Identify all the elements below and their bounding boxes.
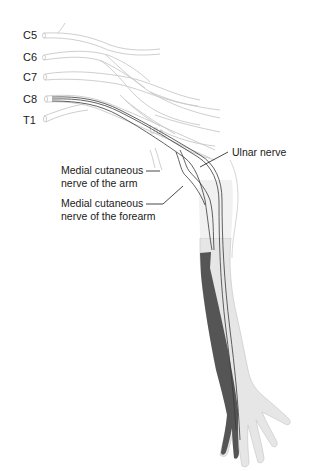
root-label-c8: C8 bbox=[23, 93, 37, 105]
label-mcn-forearm-line2: nerve of the forearm bbox=[61, 210, 156, 222]
label-ulnar-nerve: Ulnar nerve bbox=[232, 146, 286, 158]
root-label-c6: C6 bbox=[23, 51, 37, 63]
root-label-t1: T1 bbox=[23, 114, 36, 126]
label-mcn-arm-line2: nerve of the arm bbox=[61, 177, 137, 189]
label-mcn-arm-line1: Medial cutaneous bbox=[61, 164, 143, 176]
root-label-c7: C7 bbox=[23, 71, 37, 83]
brachial-plexus bbox=[43, 23, 221, 170]
label-mcn-forearm-line1: Medial cutaneous bbox=[61, 197, 143, 209]
anatomy-illustration bbox=[0, 0, 324, 471]
root-label-c5: C5 bbox=[23, 29, 37, 41]
